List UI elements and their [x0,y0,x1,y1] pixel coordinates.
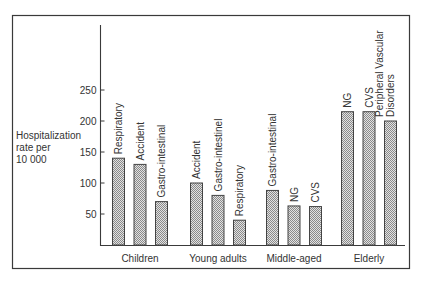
bar-label: Gastro-intestinal [156,125,167,198]
bar-label: Gastro-intestinal [267,114,278,187]
bar-label: CVS [310,182,321,203]
y-axis-label-line: 10 000 [16,154,47,165]
y-axis-label-line: Hospitalization [16,130,81,141]
bar-label: Gastro-intestinel [213,119,224,192]
y-tick-label: 200 [80,116,97,127]
y-tick-label: 150 [80,147,97,158]
category-label: Middle-aged [266,253,321,264]
bars: RespiratoryAccidentGastro-intestinalAcci… [113,30,397,245]
bar-label: Accident [191,140,202,179]
category-labels: ChildrenYoung adultsMiddle-agedElderly [121,253,384,264]
category-label: Young adults [189,253,246,264]
bar [342,112,354,245]
bar-label: Accident [135,122,146,161]
bar-group-children: RespiratoryAccidentGastro-intestinal [113,103,168,245]
bar [288,206,300,245]
bar [156,202,168,245]
bar [191,183,203,245]
y-axis-label: Hospitalizationrate per10 000 [16,130,81,165]
bar-label: Respiratory [113,103,124,154]
bar [267,190,279,245]
bar [385,121,397,245]
y-tick-label: 100 [80,178,97,189]
bar-label: Disorders [385,74,396,117]
bar-label: NG [342,92,353,107]
bar [234,220,246,245]
y-axis-label-line: rate per [16,142,51,153]
bar [212,195,224,245]
bar-group-young-adults: AccidentGastro-intestinelRespiratory [191,119,246,245]
bar-label: Respiratory [234,165,245,216]
category-label: Elderly [354,253,385,264]
bar [113,158,125,245]
bar-group-middle-aged: Gastro-intestinalNGCVS [267,114,322,245]
y-tick-label: 50 [85,209,97,220]
category-label: Children [121,253,158,264]
y-tick-label: 250 [80,85,97,96]
bar-label: CVS [364,87,375,108]
bar [310,207,322,245]
bar-group-elderly: NGCVSPeripheral VascularDisorders [342,30,397,245]
bar [363,112,375,245]
bar-label: Peripheral Vascular [374,30,385,117]
hospitalization-bar-chart: 50100150200250 Hospitalizationrate per10… [0,0,421,281]
bar-label: NG [289,187,300,202]
bar [134,164,146,245]
